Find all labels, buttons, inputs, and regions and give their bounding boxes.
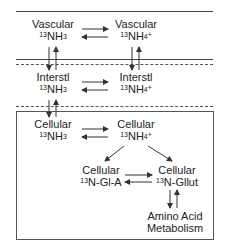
nh4-to-glut-arrow bbox=[148, 146, 172, 161]
reaction-arrows bbox=[0, 0, 225, 250]
nh4-to-gla-arrow bbox=[105, 146, 124, 161]
